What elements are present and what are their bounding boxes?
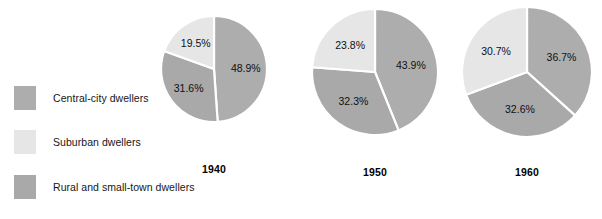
pie-slice-value-label: 23.8%	[335, 39, 365, 51]
legend-swatch-suburban	[14, 130, 36, 154]
pie-slice-value-label: 30.7%	[481, 45, 511, 57]
legend-swatch-central-city	[14, 86, 36, 110]
legend-item-central-city: Central-city dwellers	[14, 86, 149, 110]
pie-chart-1960	[458, 3, 596, 141]
legend-item-suburban: Suburban dwellers	[14, 130, 141, 154]
pie-chart-title-1950: 1950	[363, 166, 387, 178]
pie-chart-figure: Central-city dwellers Suburban dwellers …	[0, 0, 602, 219]
legend-swatch-rural	[14, 175, 36, 199]
pie-slice-value-label: 32.6%	[505, 103, 535, 115]
legend-label-rural: Rural and small-town dwellers	[53, 181, 195, 193]
pie-svg-1950	[308, 5, 442, 139]
pie-slice-value-label: 19.5%	[181, 37, 211, 49]
pie-slice-value-label: 43.9%	[396, 59, 426, 71]
legend-item-rural: Rural and small-town dwellers	[14, 175, 195, 199]
pie-slice-value-label: 36.7%	[547, 51, 577, 63]
pie-slice-value-label: 48.9%	[231, 62, 261, 74]
pie-chart-title-1940: 1940	[202, 163, 226, 175]
pie-slice-value-label: 31.6%	[174, 82, 204, 94]
legend-label-suburban: Suburban dwellers	[53, 136, 141, 148]
pie-svg-1960	[458, 3, 596, 141]
pie-slice-value-label: 32.3%	[339, 95, 369, 107]
pie-chart-1950	[308, 5, 442, 139]
legend-label-central-city: Central-city dwellers	[53, 92, 149, 104]
pie-chart-title-1960: 1960	[515, 166, 539, 178]
